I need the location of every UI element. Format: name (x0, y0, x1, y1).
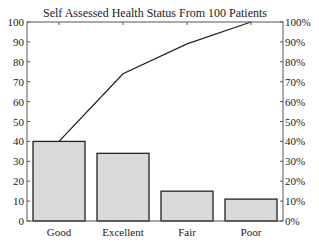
y2-tick-label: 70% (285, 76, 305, 88)
right-axis: 0%10%20%30%40%50%60%70%80%90%100% (280, 16, 311, 227)
x-tick-label: Fair (178, 226, 196, 238)
y-tick-label: 90 (13, 36, 25, 48)
y2-tick-label: 50% (285, 116, 305, 128)
y2-tick-label: 10% (285, 195, 305, 207)
bar-excellent (97, 153, 149, 221)
cumulative-line (59, 22, 251, 141)
y2-tick-label: 90% (285, 36, 305, 48)
y2-tick-label: 40% (285, 135, 305, 147)
bars (33, 141, 277, 221)
chart-title: Self Assessed Health Status From 100 Pat… (43, 6, 267, 20)
y-tick-label: 30 (13, 155, 25, 167)
y2-tick-label: 100% (285, 16, 311, 28)
bar-good (33, 141, 85, 221)
y2-tick-label: 20% (285, 175, 305, 187)
x-tick-label: Poor (241, 226, 262, 238)
y2-tick-label: 60% (285, 96, 305, 108)
y-tick-label: 20 (13, 175, 25, 187)
pareto-chart: Self Assessed Health Status From 100 Pat… (0, 0, 319, 248)
bar-poor (225, 199, 277, 221)
y-tick-label: 40 (13, 135, 25, 147)
y-tick-label: 10 (13, 195, 25, 207)
y-tick-label: 0 (19, 215, 25, 227)
y-tick-label: 80 (13, 56, 25, 68)
y2-tick-label: 30% (285, 155, 305, 167)
y2-tick-label: 0% (285, 215, 300, 227)
bar-fair (161, 191, 213, 221)
y-tick-label: 60 (13, 96, 25, 108)
x-tick-label: Good (47, 226, 72, 238)
y-tick-label: 100 (8, 16, 25, 28)
x-tick-label: Excellent (102, 226, 144, 238)
y-tick-label: 50 (13, 116, 25, 128)
y-tick-label: 70 (13, 76, 25, 88)
y2-tick-label: 80% (285, 56, 305, 68)
